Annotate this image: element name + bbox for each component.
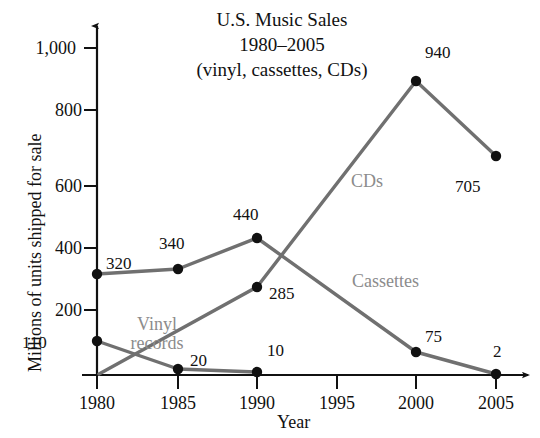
value-label-cassettes-1980: 320 (106, 255, 132, 272)
x-axis (82, 375, 528, 389)
data-point-vinyl-1980 (92, 336, 102, 346)
y-tick-label-400: 400 (20, 239, 82, 257)
data-point-vinyl-1985 (173, 364, 183, 374)
chart-title-line-3: (vinyl, cassettes, CDs) (152, 60, 412, 79)
y-tick-label-600: 600 (20, 177, 82, 195)
value-label-vinyl-1990: 10 (267, 342, 284, 359)
x-tick-label-1985: 1985 (143, 394, 213, 412)
data-point-cassettes-2005 (491, 369, 501, 379)
value-label-cassettes-1985: 340 (159, 235, 185, 252)
value-label-vinyl-1985: 20 (190, 352, 207, 369)
data-point-cds-1990 (252, 282, 262, 292)
data-point-cassettes-1985 (173, 264, 183, 274)
x-tick-label-2000: 2000 (381, 394, 451, 412)
value-label-cassettes-2000: 75 (425, 328, 442, 345)
series-annotation-cassettes: Cassettes (352, 272, 419, 290)
data-point-cassettes-1990 (252, 233, 262, 243)
value-label-vinyl-1980: 110 (22, 334, 47, 351)
series-cassettes (92, 233, 501, 379)
data-point-cds-2000 (411, 76, 421, 86)
data-point-cds-2005 (491, 151, 501, 161)
x-axis-title: Year (277, 413, 310, 431)
x-tick-label-1980: 1980 (62, 394, 132, 412)
data-point-cassettes-2000 (411, 347, 421, 357)
chart-title-line-1: U.S. Music Sales (152, 10, 412, 29)
y-tick-label-1000: 1,000 (14, 39, 76, 57)
chart-title-line-2: 1980–2005 (152, 35, 412, 54)
y-tick-label-200: 200 (20, 301, 82, 319)
series-annotation-vinyl-records: Vinyl records (112, 315, 202, 353)
value-label-cds-2005: 705 (455, 178, 481, 195)
y-axis (84, 26, 97, 376)
chart-container: U.S. Music Sales 1980–2005 (vinyl, casse… (0, 0, 540, 438)
x-tick-label-2005: 2005 (461, 394, 531, 412)
x-tick-label-1995: 1995 (302, 394, 372, 412)
y-tick-label-800: 800 (20, 101, 82, 119)
data-point-cassettes-1980 (92, 269, 102, 279)
value-label-cds-2000: 940 (425, 44, 451, 61)
series-line-cassettes (97, 238, 496, 374)
series-annotation-cds: CDs (351, 172, 383, 190)
value-label-cds-1990: 285 (269, 285, 295, 302)
value-label-cassettes-1990: 440 (233, 206, 259, 223)
x-tick-label-1990: 1990 (222, 394, 292, 412)
value-label-cassettes-2005: 2 (493, 343, 502, 360)
data-point-vinyl-1990 (252, 367, 262, 377)
